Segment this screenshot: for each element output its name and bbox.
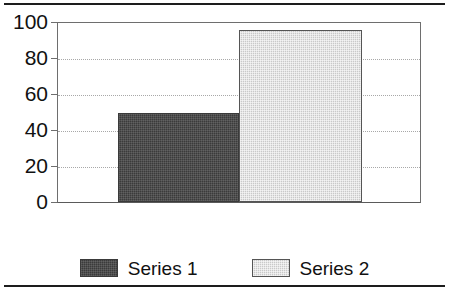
y-axis-tick-label-100: 100 [0, 11, 48, 32]
legend-entry-series-2[interactable]: Series 2 [252, 259, 370, 278]
y-axis-tick-label-0: 0 [0, 191, 48, 212]
bottom-divider-rule [4, 285, 445, 287]
plot-area [57, 22, 421, 203]
y-axis-tick-label-80: 80 [0, 47, 48, 68]
top-divider-rule [4, 3, 445, 5]
y-axis-tick-label-60: 60 [0, 83, 48, 104]
legend-swatch-series-1-icon [80, 259, 118, 277]
legend-swatch-series-2-icon [252, 259, 290, 277]
legend-label-series-2: Series 2 [300, 259, 370, 278]
bar-series-1[interactable] [118, 113, 239, 203]
y-axis-tick-label-40: 40 [0, 119, 48, 140]
legend-label-series-1: Series 1 [128, 259, 198, 278]
legend-entry-series-1[interactable]: Series 1 [80, 259, 198, 278]
chart-legend: Series 1 Series 2 [0, 255, 449, 281]
bar-series-2[interactable] [239, 30, 362, 202]
y-axis-tick-label-20: 20 [0, 155, 48, 176]
bar-chart-figure: 100 80 60 40 20 0 Series 1 Series 2 [0, 0, 449, 299]
